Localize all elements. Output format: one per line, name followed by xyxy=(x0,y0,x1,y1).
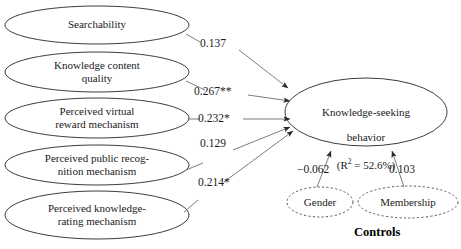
path-diagram: Searchability Knowledge content quality … xyxy=(0,0,461,249)
coefficient-label-perceived-knowledge-rating: 0.214* xyxy=(198,176,230,188)
path-arrow-perceived-knowledge-rating xyxy=(224,131,293,182)
coefficient-label-searchability: 0.137 xyxy=(200,37,226,49)
path-line-perceived-knowledge-rating-stub xyxy=(184,200,198,212)
predictor-ellipse-perceived-virtual-reward-mechanism xyxy=(5,98,189,138)
coefficient-label-membership: 0.103 xyxy=(389,163,415,175)
predictor-ellipse-perceived-public-recognition-mechanism xyxy=(5,145,189,185)
coefficient-label-gender: −0.062 xyxy=(297,163,329,175)
path-arrow-perceived-public-recognition xyxy=(233,127,290,150)
coefficient-label-perceived-virtual-reward: 0.232* xyxy=(198,112,230,124)
coefficient-label-knowledge-content-quality: 0.267** xyxy=(194,85,231,97)
control-ellipse-membership xyxy=(358,186,458,218)
coefficient-label-perceived-public-recognition: 0.129 xyxy=(200,137,226,149)
controls-caption: Controls xyxy=(354,225,400,240)
path-line-searchability-stub xyxy=(186,34,200,42)
path-arrow-knowledge-content-quality xyxy=(248,95,290,101)
rsq-prefix: (R xyxy=(337,158,348,170)
control-ellipse-gender xyxy=(287,187,353,217)
predictor-ellipse-searchability xyxy=(5,6,189,44)
path-arrow-searchability xyxy=(239,50,288,88)
predictor-ellipse-perceived-knowledge-rating-mechanism xyxy=(5,191,189,239)
outcome-label-line1: Knowledge-seeking xyxy=(296,106,436,119)
outcome-label-line2: behavior xyxy=(296,131,436,144)
predictor-ellipse-knowledge-content-quality xyxy=(5,52,189,92)
